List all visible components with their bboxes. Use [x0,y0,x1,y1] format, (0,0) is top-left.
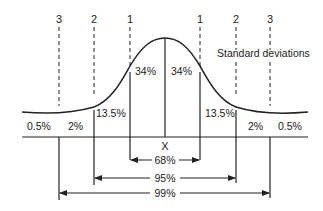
legend-label: Standard deviations [217,47,310,59]
sd-label-left-2: 2 [91,13,97,25]
normal-distribution-diagram: 3 2 1 1 2 3 Standard deviations 34% 34% … [0,0,323,211]
sd-label-right-2: 2 [233,13,239,25]
region-right-tail: 0.5% [278,120,302,132]
region-right-2: 2% [248,120,263,132]
range-label-95: 95% [154,172,175,184]
region-left-2: 2% [68,120,83,132]
region-left-tail: 0.5% [27,120,51,132]
region-right-34: 34% [171,65,192,77]
region-left-13: 13.5% [96,107,126,119]
region-left-34: 34% [135,65,156,77]
range-label-68: 68% [154,154,175,166]
range-label-99: 99% [154,187,175,199]
mean-label: X [161,140,169,152]
sd-label-right-1: 1 [197,13,203,25]
sd-label-right-3: 3 [267,13,273,25]
sd-label-left-3: 3 [56,13,62,25]
region-right-13: 13.5% [205,107,235,119]
sd-label-left-1: 1 [127,13,133,25]
